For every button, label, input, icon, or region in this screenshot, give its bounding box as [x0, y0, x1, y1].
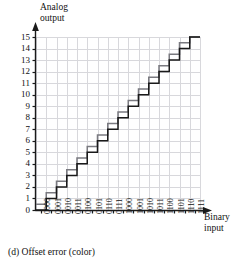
y-tick-label: 1 [14, 194, 30, 203]
x-tick-label: 1111 [198, 199, 206, 214]
figure-offset-error: Analog output Binary input 0123456789101… [0, 0, 237, 267]
y-tick-label: 15 [14, 33, 30, 42]
x-tick-label: 0110 [106, 198, 114, 214]
y-tick-label: 9 [14, 102, 30, 111]
figure-caption: (d) Offset error (color) [8, 246, 95, 257]
x-tick-label: 1001 [137, 198, 145, 214]
y-tick-label: 11 [14, 79, 30, 88]
x-tick-label: 1101 [178, 198, 186, 214]
y-tick-label: 3 [14, 171, 30, 180]
y-tick-label: 4 [14, 159, 30, 168]
x-tick-label: 0100 [85, 198, 93, 214]
plot-canvas [0, 0, 237, 267]
y-tick-label: 10 [14, 90, 30, 99]
x-tick-label: 0000 [44, 198, 52, 214]
x-tick-label: 0011 [75, 198, 83, 214]
x-tick-label: 1110 [188, 199, 196, 214]
y-tick-label: 7 [14, 125, 30, 134]
x-tick-label: 0101 [96, 198, 104, 214]
y-tick-label: 12 [14, 67, 30, 76]
x-tick-label: 0001 [55, 198, 63, 214]
y-tick-label: 0 [14, 206, 30, 215]
x-tick-label: 0010 [65, 198, 73, 214]
x-tick-label: 1000 [126, 198, 134, 214]
y-tick-label: 5 [14, 148, 30, 157]
y-tick-label: 14 [14, 44, 30, 53]
x-tick-label: 1100 [167, 198, 175, 214]
x-tick-label: 0111 [116, 199, 124, 214]
x-tick-label: 1011 [157, 198, 165, 214]
y-tick-label: 8 [14, 113, 30, 122]
y-tick-label: 6 [14, 136, 30, 145]
x-tick-label: 1010 [147, 198, 155, 214]
y-axis-arrow [32, 22, 39, 31]
y-tick-label: 2 [14, 182, 30, 191]
x-axis-title: Binary input [204, 212, 230, 233]
y-tick-label: 13 [14, 56, 30, 65]
y-axis-title: Analog output [40, 2, 68, 23]
